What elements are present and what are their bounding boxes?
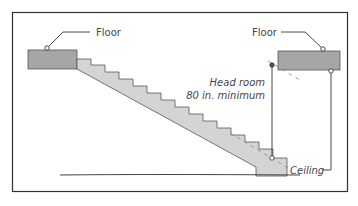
ceiling-marker-icon (329, 69, 333, 73)
headroom-top-marker-icon (270, 63, 274, 67)
floor-left-label: Floor (96, 27, 122, 38)
floor-right-marker-icon (321, 47, 325, 51)
ground-line (60, 175, 300, 176)
stair-headroom-diagram: Floor Floor Ceiling Head room 80 in. min… (0, 0, 358, 206)
floor-left-marker-icon (45, 46, 49, 50)
floor-right-label: Floor (252, 27, 278, 38)
headroom-bottom-marker-icon (270, 156, 274, 160)
head-room-label-line1: Head room (210, 77, 266, 88)
head-room-label-line2: 80 in. minimum (186, 90, 265, 101)
left-floor-slab (28, 50, 77, 69)
ceiling-label: Ceiling (290, 165, 324, 176)
right-floor-slab (278, 51, 340, 70)
